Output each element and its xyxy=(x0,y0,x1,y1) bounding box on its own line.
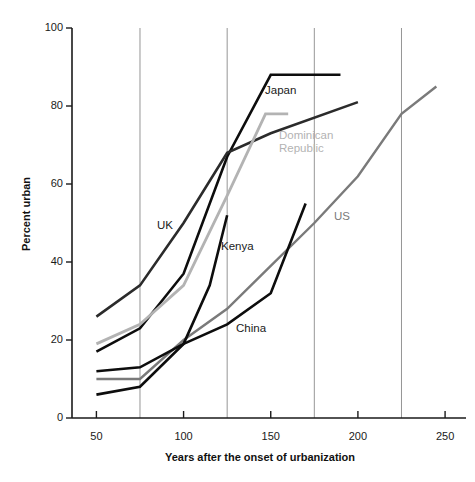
chart-container: 020406080100 50100150200250 JapanUKDomin… xyxy=(0,0,475,482)
x-tick-label: 250 xyxy=(420,430,470,442)
y-tick-label: 20 xyxy=(23,333,63,345)
x-tick-label: 150 xyxy=(246,430,296,442)
x-tick-label: 100 xyxy=(159,430,209,442)
x-axis-title: Years after the onset of urbanization xyxy=(60,451,460,463)
x-tick-label: 200 xyxy=(333,430,383,442)
y-tick-label: 80 xyxy=(23,99,63,111)
series-label-uk: UK xyxy=(157,219,173,232)
y-tick-label: 100 xyxy=(23,21,63,33)
series-label-kenya: Kenya xyxy=(221,240,254,253)
series-line-us xyxy=(96,87,436,380)
series-label-us: US xyxy=(334,210,350,223)
y-axis-title: Percent urban xyxy=(20,154,32,274)
y-tick-label: 0 xyxy=(23,411,63,423)
series-label-dominican-republic: Dominican Republic xyxy=(279,129,333,155)
x-tick-label: 50 xyxy=(71,430,121,442)
data-series-group xyxy=(96,75,436,395)
series-line-dominican-republic xyxy=(96,114,288,344)
series-label-japan: Japan xyxy=(265,84,296,97)
series-label-china: China xyxy=(236,322,266,335)
